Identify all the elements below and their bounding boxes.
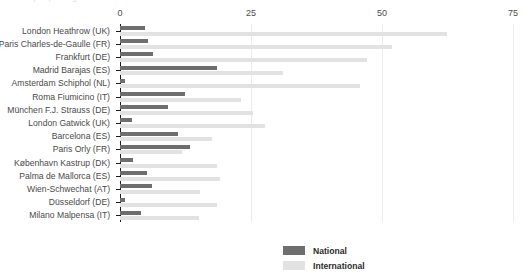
bar-international bbox=[120, 111, 253, 115]
bar-group bbox=[120, 37, 513, 50]
chart-legend: NationalInternational bbox=[283, 243, 365, 273]
bar-group bbox=[120, 24, 513, 37]
bar-chart: Air transport passengers 0255075 London … bbox=[0, 0, 527, 278]
legend-label: International bbox=[313, 261, 365, 271]
bar-group bbox=[120, 143, 513, 156]
bar-group bbox=[120, 196, 513, 209]
x-axis-tick-labels: 0255075 bbox=[0, 8, 527, 22]
bar-national bbox=[120, 26, 145, 30]
bar-group bbox=[120, 209, 513, 222]
y-axis-label: Barcelona (ES) bbox=[52, 131, 110, 141]
bar-national bbox=[120, 66, 217, 70]
bar-national bbox=[120, 211, 141, 215]
legend-swatch-international bbox=[283, 261, 305, 270]
bar-group bbox=[120, 77, 513, 90]
x-tick-label-0: 0 bbox=[117, 8, 122, 18]
bar-international bbox=[120, 203, 217, 207]
bar-group bbox=[120, 169, 513, 182]
bar-international bbox=[120, 98, 241, 102]
bar-national bbox=[120, 145, 190, 149]
y-axis-label: Milano Malpensa (IT) bbox=[29, 210, 110, 220]
chart-title: Air transport passengers bbox=[6, 0, 87, 1]
bar-national bbox=[120, 198, 125, 202]
y-axis-label: København Kastrup (DK) bbox=[14, 158, 110, 168]
bar-national bbox=[120, 171, 147, 175]
bar-group bbox=[120, 182, 513, 195]
bar-international bbox=[120, 137, 212, 141]
y-axis-label: Roma Fiumicino (IT) bbox=[32, 92, 110, 102]
bar-group bbox=[120, 103, 513, 116]
legend-swatch-national bbox=[283, 246, 305, 255]
y-axis-label: Palma de Mallorca (ES) bbox=[19, 171, 110, 181]
y-axis-label: Paris Orly (FR) bbox=[53, 144, 110, 154]
bar-international bbox=[120, 150, 182, 154]
bar-national bbox=[120, 118, 132, 122]
y-axis-label: London Gatwick (UK) bbox=[28, 118, 110, 128]
bar-national bbox=[120, 132, 178, 136]
x-tick-label-50: 50 bbox=[377, 8, 387, 18]
bar-international bbox=[120, 216, 199, 220]
bar-international bbox=[120, 32, 447, 36]
x-tick-label-25: 25 bbox=[246, 8, 256, 18]
bar-international bbox=[120, 164, 217, 168]
bar-national bbox=[120, 158, 133, 162]
x-tick-label-75: 75 bbox=[508, 8, 518, 18]
bar-group bbox=[120, 90, 513, 103]
bar-national bbox=[120, 105, 168, 109]
y-axis-label: Madrid Barajas (ES) bbox=[33, 65, 110, 75]
bar-international bbox=[120, 71, 283, 75]
legend-item[interactable]: International bbox=[283, 258, 365, 273]
bar-group bbox=[120, 64, 513, 77]
bar-international bbox=[120, 58, 367, 62]
legend-label: National bbox=[313, 246, 347, 256]
bar-national bbox=[120, 39, 148, 43]
bar-group bbox=[120, 116, 513, 129]
bar-group bbox=[120, 156, 513, 169]
y-axis-label: Düsseldorf (DE) bbox=[49, 197, 110, 207]
bar-national bbox=[120, 52, 153, 56]
legend-item[interactable]: National bbox=[283, 243, 365, 258]
bar-national bbox=[120, 79, 125, 83]
y-axis-category-labels: London Heathrow (UK)Paris Charles-de-Gau… bbox=[0, 24, 116, 222]
y-axis-label: München F.J. Strauss (DE) bbox=[7, 105, 110, 115]
y-axis-label: Amsterdam Schiphol (NL) bbox=[12, 78, 110, 88]
bar-international bbox=[120, 190, 200, 194]
bar-international bbox=[120, 45, 392, 49]
bar-national bbox=[120, 184, 152, 188]
bar-international bbox=[120, 84, 360, 88]
bar-international bbox=[120, 124, 265, 128]
y-axis-label: Frankfurt (DE) bbox=[56, 52, 110, 62]
y-axis-label: London Heathrow (UK) bbox=[22, 26, 110, 36]
bar-international bbox=[120, 177, 220, 181]
bar-group bbox=[120, 50, 513, 63]
y-axis-label: Paris Charles-de-Gaulle (FR) bbox=[0, 39, 110, 49]
gridline-75 bbox=[513, 24, 514, 222]
bar-national bbox=[120, 92, 185, 96]
y-axis-label: Wien-Schwechat (AT) bbox=[27, 184, 110, 194]
bar-group bbox=[120, 130, 513, 143]
plot-area bbox=[120, 24, 513, 222]
